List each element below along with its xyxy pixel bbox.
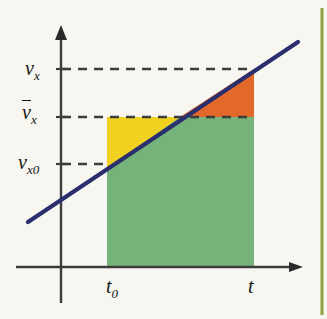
x-label-t0: t0 [106,276,118,300]
figure-canvas [0,0,327,319]
x-label-t: t [248,276,254,296]
y-label-vbar: vx [22,100,37,126]
y-label-vx-base: v [25,57,34,79]
y-label-vx0-base: v [18,151,27,173]
y-label-vbar-base: v [22,100,31,122]
y-label-vx-sub: x [34,68,40,83]
y-label-vx0-sub: x0 [27,162,40,177]
y-label-vbar-sub: x [31,112,37,127]
velocity-time-figure: vx vx vx0 t0 t [0,0,327,319]
y-label-vx0: vx0 [18,152,40,176]
x-label-t-base: t [248,275,254,297]
y-label-vx: vx [25,58,40,82]
x-label-t0-sub: 0 [112,286,119,301]
